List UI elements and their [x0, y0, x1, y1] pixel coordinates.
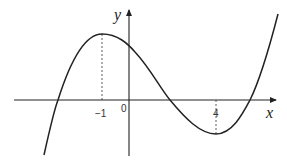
y-axis-label: y — [112, 6, 122, 24]
tick-label-4: 4 — [213, 108, 219, 119]
origin-label: 0 — [121, 103, 127, 114]
cubic-curve — [44, 14, 278, 155]
x-axis-label: x — [265, 104, 273, 121]
tick-label-neg1: −1 — [95, 108, 107, 119]
function-graph: y x 0 −1 4 — [0, 0, 287, 163]
